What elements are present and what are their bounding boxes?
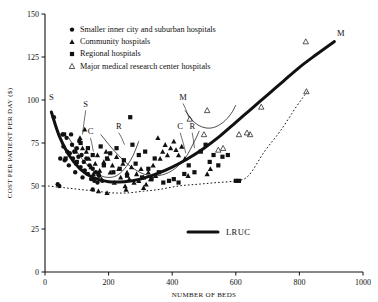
y-tick-label: 75 bbox=[31, 139, 39, 148]
y-tick-label: 25 bbox=[31, 225, 39, 234]
data-point bbox=[176, 180, 180, 184]
data-point bbox=[71, 156, 75, 160]
x-tick-label: 600 bbox=[230, 278, 242, 287]
data-point bbox=[167, 179, 171, 183]
data-point bbox=[208, 166, 213, 171]
data-point bbox=[102, 163, 106, 167]
hospital-cost-scatter-chart: 025507510012515002004006008001000NUMBER … bbox=[0, 0, 378, 302]
x-tick-label: 800 bbox=[293, 278, 305, 287]
data-point bbox=[77, 135, 82, 140]
data-point bbox=[192, 170, 196, 174]
data-point bbox=[304, 89, 309, 94]
annotation-leader-line bbox=[180, 133, 186, 154]
legend-label: Community hospitals bbox=[80, 37, 150, 46]
data-point bbox=[149, 177, 153, 181]
lruc-legend-label: LRUC bbox=[226, 227, 250, 237]
curve-label-C: C bbox=[177, 121, 183, 131]
data-point bbox=[80, 146, 85, 151]
data-point bbox=[155, 135, 160, 140]
data-point bbox=[96, 172, 100, 176]
data-point bbox=[211, 153, 215, 157]
data-point bbox=[96, 189, 101, 194]
legend-marker-filled-circle bbox=[70, 27, 74, 31]
data-point bbox=[83, 168, 87, 172]
curve-label-M: M bbox=[337, 28, 345, 38]
data-point bbox=[216, 147, 221, 152]
data-point bbox=[91, 153, 95, 157]
y-tick-label: 125 bbox=[27, 53, 39, 62]
data-point bbox=[61, 144, 65, 148]
data-point bbox=[62, 132, 66, 136]
data-point bbox=[161, 180, 165, 184]
data-point bbox=[73, 150, 77, 154]
data-point bbox=[111, 170, 115, 174]
data-point bbox=[144, 182, 149, 187]
data-point bbox=[203, 143, 207, 147]
data-point bbox=[143, 150, 147, 154]
data-point bbox=[64, 156, 68, 160]
x-tick-label: 1000 bbox=[355, 278, 371, 287]
data-point bbox=[52, 115, 56, 119]
data-point bbox=[173, 147, 178, 152]
data-point bbox=[103, 149, 108, 154]
curve-label-S: S bbox=[49, 92, 54, 102]
data-point bbox=[79, 153, 83, 157]
data-point bbox=[172, 177, 176, 181]
data-point bbox=[108, 151, 112, 155]
y-axis-label: COST PER PATIENT PER DAY ($) bbox=[6, 87, 14, 198]
x-axis-label: NUMBER OF BEDS bbox=[172, 291, 237, 299]
chart-annotations: SSCRMCRM bbox=[49, 28, 345, 153]
data-point bbox=[118, 175, 123, 180]
data-point bbox=[176, 152, 181, 157]
legend-label: Regional hospitals bbox=[80, 49, 141, 58]
data-point bbox=[114, 146, 118, 150]
data-point bbox=[171, 139, 176, 144]
data-point bbox=[216, 163, 220, 167]
annotation-leader-line bbox=[90, 138, 93, 152]
curve-label-S: S bbox=[83, 99, 88, 109]
data-point bbox=[86, 172, 90, 176]
data-point bbox=[99, 144, 103, 148]
data-point bbox=[86, 146, 90, 150]
data-point bbox=[163, 142, 168, 147]
annotation-leader-line bbox=[183, 103, 189, 117]
curve-label-C: C bbox=[88, 126, 94, 136]
y-tick-label: 100 bbox=[27, 96, 39, 105]
data-point bbox=[165, 152, 170, 157]
data-point bbox=[236, 132, 241, 137]
data-point bbox=[146, 167, 150, 171]
data-point bbox=[168, 146, 173, 151]
x-tick-label: 0 bbox=[43, 278, 47, 287]
data-point bbox=[182, 172, 186, 176]
legend-marker-filled-triangle bbox=[69, 39, 74, 44]
series-open-triangle bbox=[187, 39, 309, 152]
data-point bbox=[201, 132, 206, 137]
data-point bbox=[67, 163, 71, 167]
curve-label-M: M bbox=[179, 92, 187, 102]
data-point bbox=[160, 149, 165, 154]
data-point bbox=[204, 108, 209, 113]
data-point bbox=[151, 163, 156, 168]
data-point bbox=[93, 161, 98, 166]
data-point bbox=[105, 156, 109, 160]
chart-legend: Smaller inner city and suburban hospital… bbox=[69, 25, 250, 237]
legend-label: Major medical research center hospitals bbox=[80, 62, 211, 71]
data-point bbox=[157, 170, 161, 174]
legend-marker-filled-square bbox=[70, 52, 74, 56]
data-point bbox=[134, 162, 138, 166]
annotation-leader-line bbox=[119, 133, 125, 145]
data-point bbox=[205, 171, 210, 176]
data-point bbox=[78, 165, 82, 169]
data-point bbox=[187, 163, 191, 167]
data-point bbox=[57, 184, 61, 188]
data-point bbox=[123, 183, 128, 188]
data-point bbox=[73, 170, 77, 174]
legend-marker-open-triangle bbox=[69, 64, 74, 69]
y-tick-label: 150 bbox=[27, 10, 39, 19]
data-point bbox=[58, 156, 62, 160]
legend-label: Smaller inner city and suburban hospital… bbox=[80, 25, 216, 34]
data-point bbox=[199, 150, 203, 154]
x-tick-label: 400 bbox=[166, 278, 178, 287]
data-point bbox=[259, 104, 264, 109]
data-point bbox=[134, 171, 139, 176]
